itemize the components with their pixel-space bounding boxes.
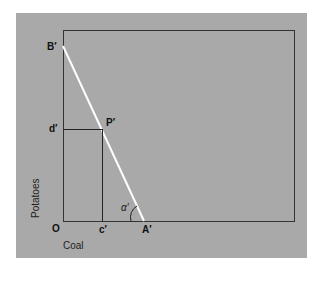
x-axis-label: Coal <box>63 241 84 251</box>
point-a-label: A′ <box>142 225 152 235</box>
origin-label: O <box>52 224 60 234</box>
point-c-label: c′ <box>99 225 107 235</box>
point-b-label: B′ <box>47 42 57 52</box>
point-p-label: P′ <box>106 118 115 128</box>
budget-line <box>63 46 144 221</box>
y-axis-label: Potatoes <box>31 179 41 218</box>
alpha-angle-label: α′ <box>121 203 129 213</box>
plot-frame <box>64 31 295 222</box>
alpha-angle-arc <box>130 206 137 221</box>
point-d-label: d′ <box>49 124 58 134</box>
